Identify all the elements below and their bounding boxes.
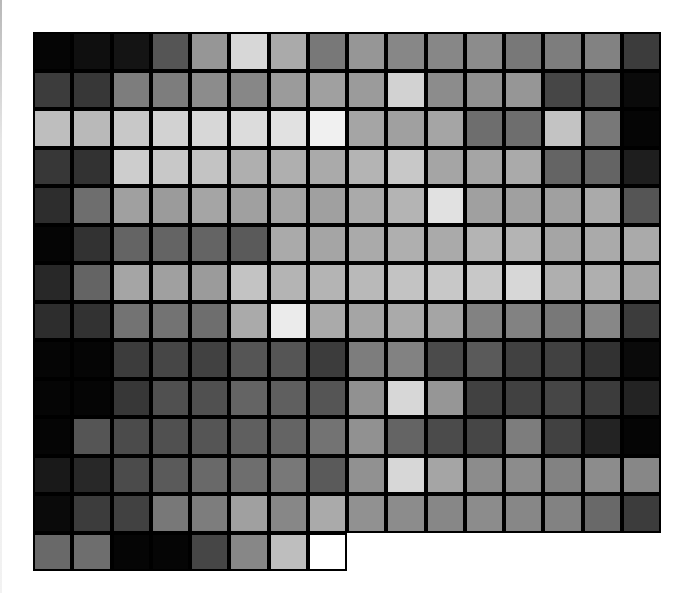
grid-cell xyxy=(386,225,425,264)
grid-cell xyxy=(543,494,582,533)
grid-cell xyxy=(269,456,308,495)
grid-cell xyxy=(229,225,268,264)
grid-cell xyxy=(229,417,268,456)
grid-cell xyxy=(229,533,268,572)
grid-cell xyxy=(33,533,72,572)
grid-cell xyxy=(583,109,622,148)
grid-cell xyxy=(465,302,504,341)
grid-cell xyxy=(426,109,465,148)
grid-cell xyxy=(151,456,190,495)
grid-cell xyxy=(504,225,543,264)
grid-cell xyxy=(308,340,347,379)
grid-cell xyxy=(583,417,622,456)
grid-cell xyxy=(190,148,229,187)
grid-cell xyxy=(347,186,386,225)
grid-cell xyxy=(269,225,308,264)
mosaic-grid xyxy=(33,32,661,571)
grid-cell xyxy=(504,186,543,225)
grid-cell xyxy=(543,225,582,264)
grid-cell xyxy=(33,148,72,187)
grid-cell xyxy=(386,417,425,456)
grid-cell xyxy=(33,225,72,264)
grid-cell xyxy=(308,263,347,302)
grid-row xyxy=(33,148,661,187)
grid-cell xyxy=(583,32,622,71)
grid-cell xyxy=(72,340,111,379)
grid-cell xyxy=(308,225,347,264)
grid-cell xyxy=(543,71,582,110)
grid-cell xyxy=(465,71,504,110)
grid-cell xyxy=(543,148,582,187)
grid-cell xyxy=(504,302,543,341)
grid-cell xyxy=(347,32,386,71)
grid-cell xyxy=(347,225,386,264)
grid-cell xyxy=(190,32,229,71)
grid-cell xyxy=(151,263,190,302)
grid-cell xyxy=(426,456,465,495)
grid-cell xyxy=(33,263,72,302)
grid-cell xyxy=(229,148,268,187)
grid-cell xyxy=(465,456,504,495)
grid-cell xyxy=(33,340,72,379)
grid-row xyxy=(33,71,661,110)
grid-cell xyxy=(386,109,425,148)
grid-row xyxy=(33,494,661,533)
grid-cell xyxy=(269,533,308,572)
grid-cell xyxy=(583,456,622,495)
grid-cell xyxy=(151,109,190,148)
grid-cell xyxy=(347,302,386,341)
grid-cell xyxy=(33,456,72,495)
grid-cell xyxy=(465,186,504,225)
grid-cell xyxy=(33,494,72,533)
grid-cell xyxy=(112,494,151,533)
grid-row xyxy=(33,186,661,225)
grid-cell xyxy=(33,302,72,341)
grid-row xyxy=(33,32,661,71)
grid-cell xyxy=(112,32,151,71)
grid-cell xyxy=(72,225,111,264)
grid-cell xyxy=(308,533,347,572)
grid-cell xyxy=(190,109,229,148)
grid-cell xyxy=(269,32,308,71)
grid-cell xyxy=(112,109,151,148)
grid-cell xyxy=(151,302,190,341)
grid-cell xyxy=(308,456,347,495)
grid-row xyxy=(33,302,661,341)
grid-cell xyxy=(583,263,622,302)
grid-cell xyxy=(269,186,308,225)
grid-cell xyxy=(112,533,151,572)
grid-cell xyxy=(112,417,151,456)
grid-cell xyxy=(151,417,190,456)
grid-cell xyxy=(543,186,582,225)
grid-cell xyxy=(504,148,543,187)
grid-cell xyxy=(426,225,465,264)
grid-cell xyxy=(72,148,111,187)
grid-cell xyxy=(72,533,111,572)
grid-cell xyxy=(308,417,347,456)
grid-cell xyxy=(151,186,190,225)
grid-cell xyxy=(112,186,151,225)
grid-cell xyxy=(151,32,190,71)
grid-cell xyxy=(426,379,465,418)
grid-cell xyxy=(151,340,190,379)
grid-cell xyxy=(190,302,229,341)
grid-row xyxy=(33,417,661,456)
grid-cell xyxy=(112,148,151,187)
grid-row xyxy=(33,379,661,418)
grid-cell xyxy=(622,225,661,264)
grid-cell xyxy=(622,186,661,225)
grid-cell xyxy=(386,71,425,110)
grid-cell xyxy=(504,71,543,110)
grid-cell xyxy=(229,109,268,148)
grid-row xyxy=(33,340,661,379)
grid-cell xyxy=(543,109,582,148)
grid-cell xyxy=(622,456,661,495)
grid-cell xyxy=(543,32,582,71)
grid-cell xyxy=(190,456,229,495)
grid-cell xyxy=(347,379,386,418)
grid-cell xyxy=(347,109,386,148)
grid-cell xyxy=(347,263,386,302)
grid-cell xyxy=(583,379,622,418)
grid-cell xyxy=(151,494,190,533)
grid-cell xyxy=(386,456,425,495)
